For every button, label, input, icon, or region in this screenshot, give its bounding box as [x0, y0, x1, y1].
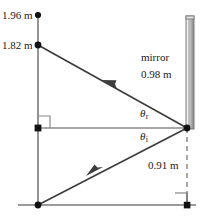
- reflection-ray-diagram: 1.96 m 1.82 m mirror 0.98 m θr θi 0.91 m: [0, 0, 200, 220]
- label-mirror-height: 0.98 m: [141, 69, 172, 80]
- point-dot-ground-left: [35, 202, 42, 209]
- label-distance-below: 0.91 m: [148, 160, 179, 171]
- theta-r-subscript: r: [145, 112, 148, 121]
- point-dot-mirror-vertex: [184, 125, 191, 132]
- label-height-source: 1.82 m: [2, 40, 33, 51]
- label-height-top: 1.96 m: [2, 10, 33, 21]
- label-theta-incidence: θi: [140, 131, 148, 144]
- point-dot-182: [35, 42, 42, 49]
- label-theta-reflection: θr: [140, 108, 148, 121]
- point-dot-normal-origin: [35, 125, 42, 132]
- mirror-bar: [186, 16, 194, 129]
- point-dot-ground-right: [184, 202, 191, 209]
- label-mirror: mirror: [141, 52, 169, 63]
- point-dot-196: [35, 12, 41, 18]
- theta-i-subscript: i: [145, 135, 148, 144]
- reflected-ray-arrow-icon: [86, 165, 103, 177]
- diagram-canvas: [0, 0, 200, 220]
